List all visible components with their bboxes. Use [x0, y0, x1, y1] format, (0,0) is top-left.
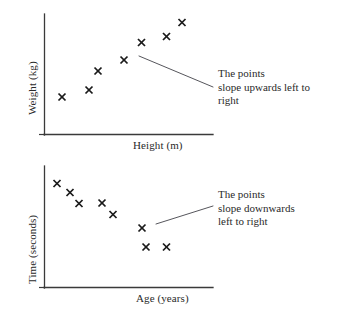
y-axis-label-bottom: Time (seconds)	[26, 215, 38, 284]
annotation-line: The points	[218, 188, 295, 202]
annotation-line: The points	[218, 67, 310, 81]
data-point	[67, 189, 74, 196]
annotation-text-bottom: The points slope downwards left to right	[218, 188, 295, 229]
data-point	[95, 68, 102, 75]
data-point	[110, 211, 117, 218]
chart-weight-vs-height: Weight (kg) Height (m) The points slope …	[0, 0, 337, 162]
data-point	[54, 180, 61, 187]
annotation-leader-line-top	[139, 56, 213, 87]
data-point	[138, 39, 145, 46]
data-point	[59, 94, 66, 101]
annotation-text-top: The points slope upwards left to right	[218, 67, 310, 108]
annotation-line: right	[218, 94, 310, 108]
data-point	[163, 33, 170, 40]
x-axis-label-bottom: Age (years)	[136, 292, 189, 304]
x-axis-label-top: Height (m)	[133, 139, 183, 151]
data-point	[143, 244, 150, 251]
data-point	[99, 200, 106, 207]
annotation-line: slope downwards	[218, 202, 295, 216]
data-point	[139, 225, 146, 232]
y-axis-label-top: Weight (kg)	[26, 61, 38, 115]
annotation-leader-line-bottom	[156, 206, 213, 224]
annotation-line: left to right	[218, 215, 295, 229]
chart-time-vs-age: Time (seconds) Age (years) The points sl…	[0, 162, 337, 324]
data-point	[163, 244, 170, 251]
data-point	[86, 87, 93, 94]
figure-canvas: Weight (kg) Height (m) The points slope …	[0, 0, 337, 324]
annotation-line: slope upwards left to	[218, 81, 310, 95]
data-point	[121, 57, 128, 64]
data-point	[76, 200, 83, 207]
data-point	[179, 19, 186, 26]
